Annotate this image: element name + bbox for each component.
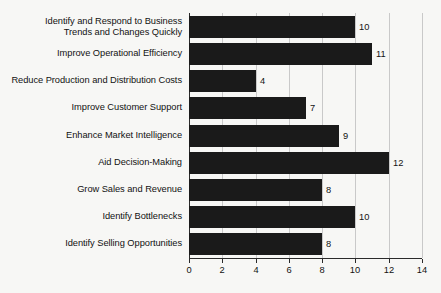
bar bbox=[189, 152, 389, 174]
bar-value-label: 12 bbox=[393, 152, 403, 174]
category-label-line: Improve Operational Efficiency bbox=[57, 48, 182, 59]
x-tick-14 bbox=[422, 259, 423, 263]
x-tick-6 bbox=[289, 259, 290, 263]
x-tick-10 bbox=[355, 259, 356, 263]
category-label-line: Identify and Respond to Business bbox=[45, 16, 182, 27]
bar bbox=[189, 97, 306, 119]
bar-value-label: 9 bbox=[343, 125, 348, 147]
bar bbox=[189, 206, 355, 228]
category-label-line: Grow Sales and Revenue bbox=[77, 184, 182, 195]
bar-value-label: 8 bbox=[326, 233, 331, 255]
x-tick-label: 4 bbox=[244, 265, 268, 275]
category-label: Improve Operational Efficiency bbox=[0, 43, 182, 65]
category-label: Grow Sales and Revenue bbox=[0, 179, 182, 201]
plot-area: 1011479128108 bbox=[189, 13, 422, 258]
bar bbox=[189, 179, 322, 201]
bar-value-label: 4 bbox=[260, 70, 265, 92]
category-label-line: Aid Decision-Making bbox=[98, 157, 182, 168]
category-label: Identify Selling Opportunities bbox=[0, 233, 182, 255]
x-tick-label: 0 bbox=[177, 265, 201, 275]
x-tick-label: 14 bbox=[410, 265, 434, 275]
x-tick-label: 2 bbox=[210, 265, 234, 275]
x-tick-label: 10 bbox=[343, 265, 367, 275]
category-label-line: Identify Bottlenecks bbox=[102, 211, 182, 222]
x-tick-label: 8 bbox=[310, 265, 334, 275]
bar-chart: Identify and Respond to BusinessTrends a… bbox=[0, 0, 441, 293]
category-label: Improve Customer Support bbox=[0, 97, 182, 119]
category-label-line: Trends and Changes Quickly bbox=[64, 27, 182, 38]
category-label: Enhance Market Intelligence bbox=[0, 125, 182, 147]
category-label-column: Identify and Respond to BusinessTrends a… bbox=[0, 13, 182, 258]
category-label-line: Enhance Market Intelligence bbox=[66, 130, 182, 141]
bar bbox=[189, 125, 339, 147]
x-axis-line bbox=[189, 258, 422, 259]
x-tick-2 bbox=[222, 259, 223, 263]
bar bbox=[189, 16, 355, 38]
x-tick-12 bbox=[389, 259, 390, 263]
bar-value-label: 11 bbox=[376, 43, 386, 65]
category-label-line: Reduce Production and Distribution Costs bbox=[11, 75, 182, 86]
bar-value-label: 7 bbox=[310, 97, 315, 119]
bar-value-label: 10 bbox=[359, 16, 369, 38]
bar-value-label: 8 bbox=[326, 179, 331, 201]
category-label-line: Improve Customer Support bbox=[72, 102, 182, 113]
bar bbox=[189, 43, 372, 65]
category-label: Identify Bottlenecks bbox=[0, 206, 182, 228]
gridline-14 bbox=[422, 13, 423, 258]
category-label-line: Identify Selling Opportunities bbox=[65, 238, 182, 249]
category-label: Identify and Respond to BusinessTrends a… bbox=[0, 16, 182, 38]
x-tick-0 bbox=[189, 259, 190, 263]
category-label: Aid Decision-Making bbox=[0, 152, 182, 174]
category-label: Reduce Production and Distribution Costs bbox=[0, 70, 182, 92]
x-tick-8 bbox=[322, 259, 323, 263]
x-tick-label: 12 bbox=[377, 265, 401, 275]
bar bbox=[189, 70, 256, 92]
bar-value-label: 10 bbox=[359, 206, 369, 228]
x-tick-4 bbox=[256, 259, 257, 263]
gridline-12 bbox=[389, 13, 390, 258]
bar bbox=[189, 233, 322, 255]
x-tick-label: 6 bbox=[277, 265, 301, 275]
